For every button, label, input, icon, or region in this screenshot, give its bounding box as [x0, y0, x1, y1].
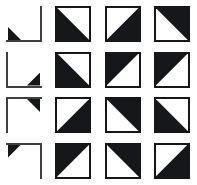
- triangle-upper-right-icon: [106, 98, 140, 132]
- corner-nub-top-left-icon: [8, 145, 21, 158]
- tile-upper-left: [105, 52, 141, 88]
- tile-upper-left: [55, 143, 91, 179]
- triangle-lower-right-icon: [155, 144, 189, 178]
- tile-upper-right: [154, 6, 190, 42]
- triangle-lower-left-icon: [155, 98, 189, 132]
- tile-upper-right: [105, 97, 141, 133]
- corner-bracket-top-left: [6, 97, 42, 133]
- tile-lower-right: [105, 6, 141, 42]
- triangle-lower-right-icon: [106, 7, 140, 41]
- grid-cell-r3-c1[interactable]: [6, 97, 42, 133]
- triangle-upper-right-icon: [106, 144, 140, 178]
- bracket-edge-right: [40, 143, 42, 179]
- corner-nub-bottom-left-icon: [8, 27, 21, 40]
- grid-cell-r3-c2[interactable]: [55, 97, 91, 133]
- grid-cell-r4-c4[interactable]: [154, 143, 190, 179]
- grid-cell-r2-c2[interactable]: [55, 52, 91, 88]
- grid-cell-r1-c4[interactable]: [154, 6, 190, 42]
- corner-bracket-left-bottom: [6, 52, 42, 88]
- corner-bracket-top-right: [6, 143, 42, 179]
- triangle-upper-right-icon: [155, 7, 189, 41]
- grid-cell-r2-c1[interactable]: [6, 52, 42, 88]
- corner-bracket-right-bottom: [6, 6, 42, 42]
- tile-lower-right: [154, 143, 190, 179]
- bracket-edge-left: [6, 52, 8, 88]
- bracket-edge-left: [6, 97, 8, 133]
- tile-upper-left: [154, 52, 190, 88]
- triangle-upper-left-icon: [106, 53, 140, 87]
- grid-cell-r4-c2[interactable]: [55, 143, 91, 179]
- bracket-edge-right: [40, 6, 42, 42]
- grid-cell-r1-c1[interactable]: [6, 6, 42, 42]
- grid-cell-r1-c3[interactable]: [105, 6, 141, 42]
- triangle-lower-left-icon: [56, 53, 90, 87]
- grid-cell-r3-c4[interactable]: [154, 97, 190, 133]
- triangle-lower-left-icon: [56, 7, 90, 41]
- grid-cell-r3-c3[interactable]: [105, 97, 141, 133]
- bracket-edge-bottom: [6, 40, 42, 42]
- triangle-upper-left-icon: [56, 144, 90, 178]
- tile-lower-left: [154, 97, 190, 133]
- grid-cell-r2-c3[interactable]: [105, 52, 141, 88]
- triangle-lower-right-icon: [56, 98, 90, 132]
- grid-cell-r1-c2[interactable]: [55, 6, 91, 42]
- bracket-edge-top: [6, 143, 42, 145]
- grid-cell-r4-c1[interactable]: [6, 143, 42, 179]
- bracket-edge-bottom: [6, 86, 42, 88]
- corner-nub-top-right-icon: [27, 99, 40, 112]
- grid-cell-r4-c3[interactable]: [105, 143, 141, 179]
- tile-pattern-grid: [0, 0, 197, 185]
- tile-lower-left: [55, 52, 91, 88]
- triangle-upper-left-icon: [155, 53, 189, 87]
- grid-cell-r2-c4[interactable]: [154, 52, 190, 88]
- tile-lower-right: [55, 97, 91, 133]
- tile-lower-left: [55, 6, 91, 42]
- bracket-edge-top: [6, 97, 42, 99]
- tile-upper-right: [105, 143, 141, 179]
- corner-nub-bottom-right-icon: [27, 73, 40, 86]
